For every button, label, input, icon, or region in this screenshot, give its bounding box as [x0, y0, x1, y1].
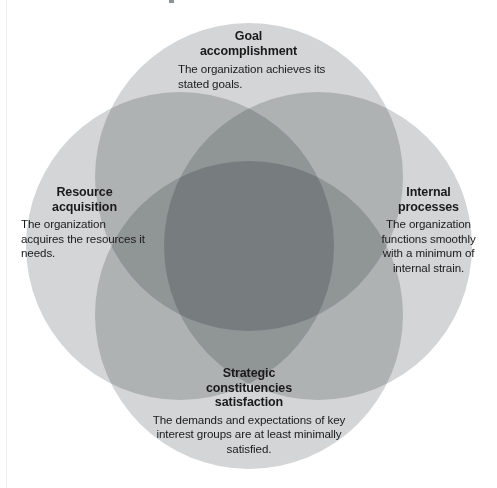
label-resource-acquisition: Resource acquisition The organization ac…	[21, 185, 148, 261]
label-goal-title-line-2: accomplishment	[200, 44, 297, 58]
label-internal-processes-body: The organization functions smoothly with…	[371, 214, 486, 275]
label-internal-processes: Internal processes The organization func…	[371, 185, 486, 275]
label-goal-accomplishment: Goal accomplishment The organization ach…	[139, 29, 358, 91]
label-strategic-constituencies-satisfaction: Strategic constituencies satisfaction Th…	[135, 366, 363, 456]
venn-diagram: Goal accomplishment The organization ach…	[0, 0, 497, 488]
label-internal-title-line-2: processes	[398, 200, 459, 214]
label-strategic-title-line-2: constituencies	[206, 381, 292, 395]
label-strategic-constituencies-satisfaction-title: Strategic constituencies satisfaction	[135, 366, 363, 410]
label-resource-acquisition-body: The organization acquires the resources …	[21, 214, 148, 261]
label-goal-title-line-1: Goal	[235, 29, 262, 43]
label-goal-accomplishment-body: The organization achieves its stated goa…	[139, 58, 358, 91]
label-internal-processes-title: Internal processes	[371, 185, 486, 214]
label-strategic-constituencies-satisfaction-body: The demands and expectations of key inte…	[135, 410, 363, 457]
label-internal-title-line-1: Internal	[406, 185, 450, 199]
label-strategic-title-line-1: Strategic	[223, 366, 276, 380]
label-resource-title-line-1: Resource	[56, 185, 112, 199]
label-resource-acquisition-title: Resource acquisition	[21, 185, 148, 214]
label-goal-accomplishment-title: Goal accomplishment	[139, 29, 358, 58]
label-strategic-title-line-3: satisfaction	[215, 395, 283, 409]
label-resource-title-line-2: acquisition	[52, 200, 117, 214]
